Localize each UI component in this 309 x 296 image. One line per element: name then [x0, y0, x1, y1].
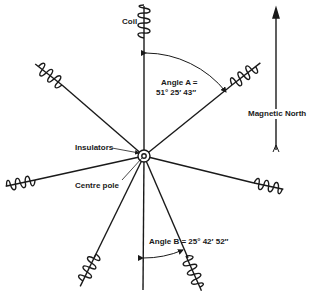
spoke-south — [143, 156, 144, 290]
coil-north — [138, 5, 150, 40]
coil-north-east — [228, 58, 264, 90]
angle-b-arc — [143, 250, 183, 258]
spoke-west — [35, 156, 144, 180]
insulators-label: Insulators — [75, 143, 113, 153]
angle-a-value: 51° 25′ 43″ — [156, 88, 196, 98]
antenna-array-diagram — [0, 0, 309, 296]
coil-south-west — [75, 251, 102, 289]
centre-pole-label: Centre pole — [75, 181, 119, 191]
angle-a-title: Angle A = — [161, 78, 198, 88]
angle-b-label: Angle B = 25° 42′ 52″ — [149, 237, 228, 247]
magnetic-north-label: Magnetic North — [248, 109, 306, 119]
coil-south-east — [181, 254, 207, 294]
centre-pole-leader — [122, 158, 142, 180]
coil-west — [5, 175, 37, 192]
coil-north-west — [32, 59, 66, 89]
spoke-south-west — [94, 156, 144, 258]
coil-east — [253, 178, 285, 195]
coil-label: Coil — [122, 17, 137, 27]
magnetic-north-arrow — [273, 8, 279, 152]
spoke-east — [144, 156, 254, 183]
